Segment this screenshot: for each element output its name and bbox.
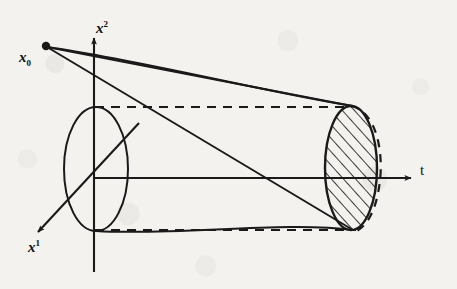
label-x-nought: x0: [19, 50, 31, 68]
ray-lower: [47, 47, 353, 230]
ray-upper: [47, 47, 352, 106]
figure-canvas: x0 x2 x1 t: [0, 0, 457, 289]
label-x-squared: x2: [96, 20, 108, 36]
label-x-one: x1: [28, 239, 40, 255]
label-t: t: [420, 163, 424, 178]
light-cone-diagram: [0, 0, 457, 289]
source-point-dot: [42, 42, 50, 50]
end-ellipse-hatched: [325, 106, 377, 230]
